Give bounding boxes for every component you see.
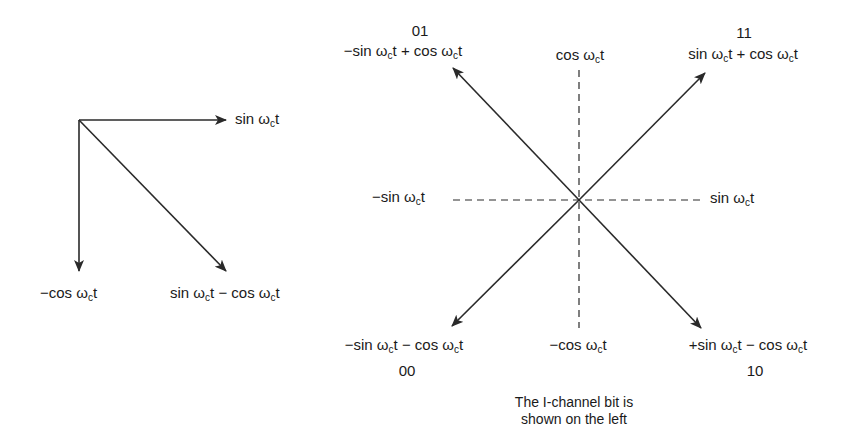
label-sin: sin ωct xyxy=(235,110,279,128)
code-11: 11 xyxy=(736,24,752,42)
label-sin-minus-cos: sin ωct − cos ωct xyxy=(170,284,280,302)
axis-label-cos: cos ωct xyxy=(556,46,604,64)
qpsk-diagram-canvas xyxy=(0,0,862,446)
axis-label-neg-cos: −cos ωct xyxy=(549,336,606,354)
label-neg-cos: −cos ωct xyxy=(40,284,97,302)
code-10: 10 xyxy=(747,362,764,380)
point-label-00: −sin ωct − cos ωct xyxy=(345,336,463,354)
point-label-10: +sin ωct − cos ωct xyxy=(689,336,807,354)
code-01: 01 xyxy=(412,22,429,40)
qpsk-constellation xyxy=(452,68,705,328)
arrow-01 xyxy=(453,68,579,200)
arrow-10 xyxy=(579,200,701,328)
point-label-01: −sin ωct + cos ωct xyxy=(344,42,462,60)
arrow-11 xyxy=(579,73,705,200)
left-phasor-diagram xyxy=(79,120,226,271)
sum-phasor-arrow xyxy=(79,120,226,271)
axis-label-sin: sin ωct xyxy=(710,189,754,207)
arrow-00 xyxy=(452,200,579,326)
caption-line-2: shown on the left xyxy=(515,411,633,428)
caption: The I-channel bit is shown on the left xyxy=(515,394,633,428)
caption-line-1: The I-channel bit is xyxy=(515,394,633,411)
axis-label-neg-sin: −sin ωct xyxy=(372,188,425,206)
point-label-11: sin ωct + cos ωct xyxy=(688,45,798,63)
code-00: 00 xyxy=(399,362,416,380)
